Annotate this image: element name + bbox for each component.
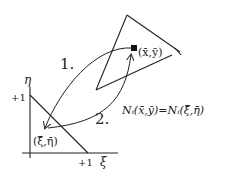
local-point-label: (ξ̄,η̄) [33, 135, 58, 148]
step-1-label: 1. [60, 55, 74, 73]
xi-tick-label: +1 [78, 157, 93, 168]
equation-label: Nᵢ(x̄,ȳ)=Nᵢ(ξ̄,η̄) [121, 104, 204, 117]
xi-axis-label: ξ [100, 155, 108, 169]
global-point-label: (x̄,ȳ) [138, 46, 163, 59]
mapping-diagram: 1. 2. (x̄,ȳ) (ξ̄,η̄) Nᵢ(x̄,ȳ)=Nᵢ(ξ̄,η̄) … [0, 0, 230, 179]
step-2-label: 2. [95, 110, 109, 128]
eta-axis-label: η [24, 73, 32, 87]
arrow-step-1 [45, 48, 133, 128]
eta-tick-label: +1 [11, 92, 26, 103]
